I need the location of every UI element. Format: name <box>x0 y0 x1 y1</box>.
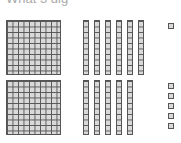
ten-rod <box>116 20 122 75</box>
one-cube <box>168 23 174 29</box>
ten-rod <box>116 80 122 135</box>
ten-rod <box>127 20 133 75</box>
one-cube <box>168 113 174 119</box>
ten-rod <box>105 80 111 135</box>
ten-rod <box>83 20 89 75</box>
one-cube <box>168 123 174 129</box>
ten-rod <box>138 20 144 75</box>
ten-rod <box>127 80 133 135</box>
ten-rod <box>94 20 100 75</box>
ten-rod <box>83 80 89 135</box>
ten-rod <box>94 80 100 135</box>
one-cube <box>168 83 174 89</box>
hundred-flat <box>6 20 61 75</box>
one-cube <box>168 103 174 109</box>
question-text: What 3 dig <box>6 0 68 6</box>
one-cube <box>168 93 174 99</box>
ten-rod <box>105 20 111 75</box>
hundred-flat <box>6 80 61 135</box>
